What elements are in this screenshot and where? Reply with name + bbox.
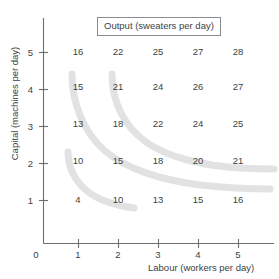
- x-tick-label-1: 1: [71, 249, 85, 260]
- cell-value: 16: [227, 194, 249, 205]
- chart-title-box: Output (sweaters per day): [97, 17, 221, 36]
- x-tick-label-2: 2: [111, 249, 125, 260]
- x-tick-label-3: 3: [151, 249, 165, 260]
- cell-value: 28: [227, 46, 249, 57]
- cell-value: 15: [107, 155, 129, 166]
- y-tick-label-4: 4: [19, 84, 33, 95]
- cell-value: 4: [67, 194, 89, 205]
- cell-value: 13: [67, 118, 89, 129]
- cell-value: 21: [107, 81, 129, 92]
- cell-value: 16: [67, 46, 89, 57]
- cell-value: 25: [147, 46, 169, 57]
- x-tick-label-4: 4: [191, 249, 205, 260]
- cell-value: 21: [227, 155, 249, 166]
- cell-value: 18: [147, 155, 169, 166]
- x-tick-label-5: 5: [231, 249, 245, 260]
- cell-value: 10: [67, 155, 89, 166]
- plot-area: [0, 0, 279, 279]
- y-tick-label-3: 3: [19, 121, 33, 132]
- y-tick-label-1: 1: [19, 195, 33, 206]
- cell-value: 26: [187, 81, 209, 92]
- cell-value: 24: [147, 81, 169, 92]
- cell-value: 15: [67, 81, 89, 92]
- x-axis-title: Labour (workers per day): [148, 262, 254, 273]
- y-axis-title: Capital (machines per day): [9, 44, 20, 164]
- cell-value: 15: [187, 194, 209, 205]
- cell-value: 27: [227, 81, 249, 92]
- cell-value: 13: [147, 194, 169, 205]
- x-tick-label-0: 0: [29, 249, 43, 260]
- isoquant-chart: Output (sweaters per day) Capital (machi…: [0, 0, 279, 279]
- y-tick-label-5: 5: [19, 47, 33, 58]
- cell-value: 10: [107, 194, 129, 205]
- cell-value: 24: [187, 118, 209, 129]
- cell-value: 22: [147, 118, 169, 129]
- cell-value: 20: [187, 155, 209, 166]
- cell-value: 18: [107, 118, 129, 129]
- cell-value: 25: [227, 118, 249, 129]
- cell-value: 22: [107, 46, 129, 57]
- cell-value: 27: [187, 46, 209, 57]
- y-tick-label-2: 2: [19, 158, 33, 169]
